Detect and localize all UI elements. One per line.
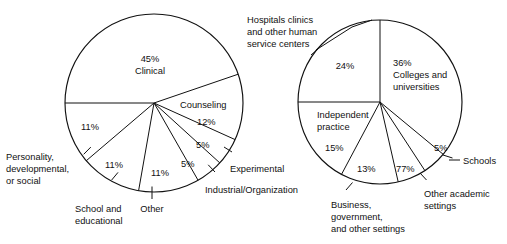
left-label-personality-line2: developmental, xyxy=(6,164,69,174)
left-label-counseling-name: Counseling xyxy=(180,100,227,110)
left-label-clinical-name: Clinical xyxy=(135,66,165,76)
right-tick-business xyxy=(346,183,353,191)
right-label-other-academic-line1: Other academic xyxy=(424,189,490,199)
left-label-personality-line3: or social xyxy=(6,176,41,186)
right-tick-schools xyxy=(443,155,453,158)
right-label-business-line2: government, xyxy=(331,212,383,222)
right-label-hospitals-line3: service centers xyxy=(247,39,310,49)
right-label-hospitals-line1: Hospitals clinics xyxy=(247,15,313,25)
right-label-business-line1: Business, xyxy=(331,200,371,210)
right-pie-chart: 36% Colleges and universities 5% Schools… xyxy=(247,15,496,234)
right-label-colleges-line2: universities xyxy=(393,82,440,92)
left-label-personality-percent: 11% xyxy=(81,122,99,132)
right-label-hospitals-line2: and other human xyxy=(247,27,317,37)
left-label-personality-line1: Personality, xyxy=(6,152,54,162)
right-label-schools-name: Schools xyxy=(463,156,496,166)
right-tick-other-academic xyxy=(420,173,427,180)
right-label-business-line3: and other settings xyxy=(331,224,405,234)
two-pie-chart-figure: 45% Clinical Counseling 12% 5% Experimen… xyxy=(0,0,507,244)
left-label-experimental-name: Experimental xyxy=(230,164,284,174)
right-label-independent-line2: practice xyxy=(317,122,350,132)
left-label-experimental-percent: 5% xyxy=(196,140,209,150)
right-label-colleges-line1: Colleges and xyxy=(393,70,447,80)
right-label-independent-line1: Independent xyxy=(317,110,369,120)
left-label-school-name-line1: School and xyxy=(75,204,122,214)
right-label-colleges-percent: 36% xyxy=(393,58,412,68)
right-label-business-percent: 13% xyxy=(357,164,376,174)
left-label-school-percent: 11% xyxy=(105,160,123,170)
left-label-industrial-name: Industrial/Organization xyxy=(205,185,298,195)
left-label-counseling-percent: 12% xyxy=(197,117,216,127)
right-label-schools-percent: 5% xyxy=(434,143,447,153)
left-label-school-name-line2: educational xyxy=(75,216,123,226)
left-label-other-name-text: Other xyxy=(140,204,163,214)
left-label-other-percent: 11% xyxy=(151,168,169,178)
right-label-other-academic-percent: 77% xyxy=(396,164,415,174)
right-label-hospitals-percent: 24% xyxy=(336,61,355,71)
right-label-independent-percent: 15% xyxy=(325,143,344,153)
left-label-clinical-percent: 45% xyxy=(141,54,160,64)
right-label-other-academic-line2: settings xyxy=(424,201,456,211)
left-label-industrial-percent: 5% xyxy=(181,159,194,169)
